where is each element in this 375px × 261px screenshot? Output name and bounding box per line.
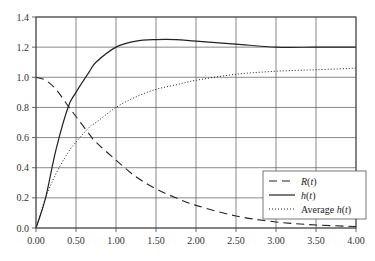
x-tick-label: 3.00 [267, 235, 285, 246]
y-tick-label: 0.6 [17, 132, 30, 143]
y-tick-label: 1.0 [17, 72, 30, 83]
x-tick-label: 0.50 [67, 235, 85, 246]
y-tick-label: 1.2 [17, 42, 30, 53]
y-axis-ticks: 0.00.20.40.60.81.01.21.4 [17, 12, 37, 234]
y-tick-label: 0.0 [17, 223, 30, 234]
x-tick-label: 1.50 [147, 235, 165, 246]
legend-label: h(t) [301, 190, 315, 202]
x-tick-label: 4.00 [347, 235, 365, 246]
legend-label: Average h(t) [301, 204, 351, 216]
y-tick-label: 0.8 [17, 102, 30, 113]
y-tick-label: 1.4 [17, 12, 30, 23]
x-tick-label: 1.00 [107, 235, 125, 246]
legend-label: R(t) [300, 176, 317, 188]
x-axis-ticks: 0.000.501.001.502.002.503.003.504.00 [27, 228, 365, 246]
line-chart: 0.00.20.40.60.81.01.21.4 0.000.501.001.5… [0, 0, 375, 261]
x-tick-label: 0.00 [27, 235, 45, 246]
y-tick-label: 0.4 [17, 162, 30, 173]
y-tick-label: 0.2 [17, 192, 30, 203]
x-tick-label: 2.50 [227, 235, 245, 246]
x-tick-label: 2.00 [187, 235, 205, 246]
x-tick-label: 3.50 [307, 235, 325, 246]
legend: R(t)h(t)Average h(t) [263, 171, 366, 219]
